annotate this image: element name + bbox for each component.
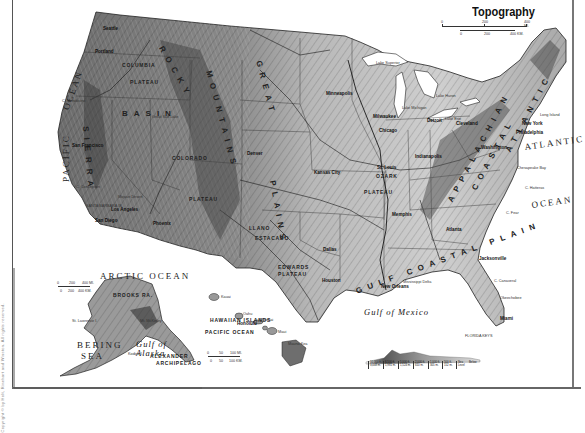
feature-label-mojave-desert: Mojave Desert [118,196,142,200]
legend-cell: 1,000 ft. 305 m. [428,361,442,369]
feature-label-long-island: Long Island [540,114,560,118]
city-label-minneapolis: Minneapolis [326,92,353,97]
hawaii-scale-bar: 0 50 100 MI. 0 50 100 KM. [206,350,246,368]
city-label-new-orleans: New Orleans [381,285,409,290]
region-label-columbia-plateau-2: PLATEAU [130,80,159,85]
feature-label-c-mendocino: C. Mendocino [62,100,85,104]
city-label-san-francisco: San Francisco [72,144,103,149]
feature-label-mauna-kea: Mauna Kea [288,343,307,347]
region-label-colorado-plateau-2: PLATEAU [189,197,218,202]
region-label-brooks-range: BROOKS RA. [113,293,153,298]
city-label-jacksonville: Jacksonville [479,257,506,262]
feature-label-lake-erie: Lake Erie [445,118,461,122]
feature-label-mt-mckinley: Mt. McKinley [140,320,162,324]
region-label-hawaii-pacific: PACIFIC OCEAN [205,330,254,335]
feature-label-santa-barbara: SANTA BARBARA IS. [86,205,123,209]
region-label-alexander-arch: ALEXANDER [150,354,188,359]
feature-label-mississippi-delta: Mississippi Delta [403,281,431,285]
region-label-edwards-plateau-2: PLATEAU [278,272,307,277]
feature-label-lake-huron: Lake Huron [436,95,456,99]
city-label-dallas: Dallas [323,248,337,253]
city-label-milwaukee: Milwaukee [373,115,396,120]
feature-label-maui: Maui [278,331,286,335]
ocean-label-bering: BERING [77,341,123,350]
region-label-ozark-plateau-2: PLATEAU [364,190,393,195]
ocean-label-bering-sea: SEA [81,352,104,361]
city-label-washington: Washington [481,146,507,151]
legend-cell: 2,000 ft. 610 m. [413,361,429,369]
city-label-phoenix: Phoenix [153,222,171,227]
feature-label-okeechobee: Okeechobee [500,297,522,301]
map-title: Topography [472,4,535,19]
feature-label-great-salt-lake: Great Salt Lake [152,116,178,120]
region-label-edwards-plateau: EDWARDS [278,265,309,270]
legend-cell: 6,500 ft. 1,981 m. [383,361,399,369]
feature-label-kodiak: Kodiak I. [128,353,143,357]
city-label-detroit: Detroit [427,119,442,124]
city-label-houston: Houston [322,279,341,284]
main-scale-bar: 0 200 400 MI. 0 200 400 KM. [438,20,534,38]
city-label-cleveland: Cleveland [456,122,478,127]
region-label-ozark-plateau: OZARK [376,174,398,179]
feature-label-oahu: Oahu [243,313,252,317]
feature-label-kauai: Kauai [221,296,231,300]
elevation-legend: 10,000 ft. 3,048 m. 6,500 ft. 1,981 m. 5… [362,352,502,374]
feature-label-lake-superior: Lake Superior [376,62,400,66]
region-label-colorado-plateau: COLORADO [172,156,208,161]
feature-label-lake-michigan: Lake Michigan [402,107,426,111]
city-label-kansas-city: Kansas City [314,171,340,176]
feature-label-st-lawrence: St. Lawrence I. [72,320,97,324]
city-label-seattle: Seattle [103,27,118,32]
legend-cell: 5,000 ft. 1,524 m. [398,361,414,369]
legend-cell: 500 ft. 152 m. [442,361,456,369]
city-label-san-diego: San Diego [95,219,117,224]
city-label-miami: Miami [500,317,513,322]
ocean-label-pacific: PACIFIC [62,134,71,182]
city-label-honolulu: Honolulu [237,322,257,327]
feature-label-c-canaveral: C. Canaveral [494,280,516,284]
city-label-atlanta: Atlanta [446,228,462,233]
feature-label-molokai: Molokai [260,319,273,323]
feature-label-chesapeake-bay: Chesapeake Bay [517,167,546,171]
alaska-scale-bar: 0 200 400 MI. 0 200 400 KM. [56,280,96,298]
city-label-st-louis: St. Louis [377,166,396,171]
region-label-llano-estacado: LLANO [249,226,270,231]
feature-label-c-hatteras: C. Hatteras [525,187,544,191]
legend-cell: Sea Level [456,361,468,369]
feature-label-c-fear: C. Fear [506,212,519,216]
ocean-label-arctic: ARCTIC OCEAN [100,272,190,281]
city-label-denver: Denver [247,152,263,157]
city-label-philadelphia: Philadelphia [516,131,543,136]
city-label-portland: Portland [95,50,114,55]
feature-label-florida-keys: FLORIDA KEYS [465,335,492,339]
region-label-alexander-arch-2: ARCHIPELAGO [156,361,202,366]
legend-cell: Below [468,361,481,369]
legend-cell: 10,000 ft. 3,048 m. [368,361,384,369]
region-label-columbia-plateau: COLUMBIA [122,63,155,68]
city-label-new-york: New York [522,122,543,127]
feature-label-c-conception: C. Conception [76,186,100,190]
city-label-memphis: Memphis [392,213,412,218]
gulf-label-gulf-of-mexico: Gulf of Mexico [364,308,429,317]
city-label-indianapolis: Indianapolis [415,155,442,160]
city-label-chicago: Chicago [379,129,397,134]
